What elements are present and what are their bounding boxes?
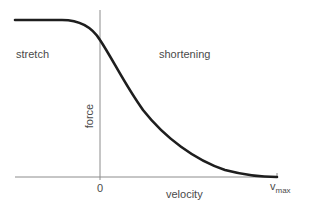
force-velocity-curve: [15, 20, 277, 177]
x-tick-vmax: vmax: [270, 180, 291, 195]
x-axis-label: velocity: [166, 188, 203, 200]
shortening-region-label: shortening: [159, 48, 210, 60]
vmax-subscript: max: [276, 186, 291, 195]
stretch-region-label: stretch: [16, 48, 49, 60]
y-axis-label: force: [83, 104, 95, 128]
x-tick-zero: 0: [97, 182, 103, 194]
force-velocity-chart: [0, 0, 309, 211]
